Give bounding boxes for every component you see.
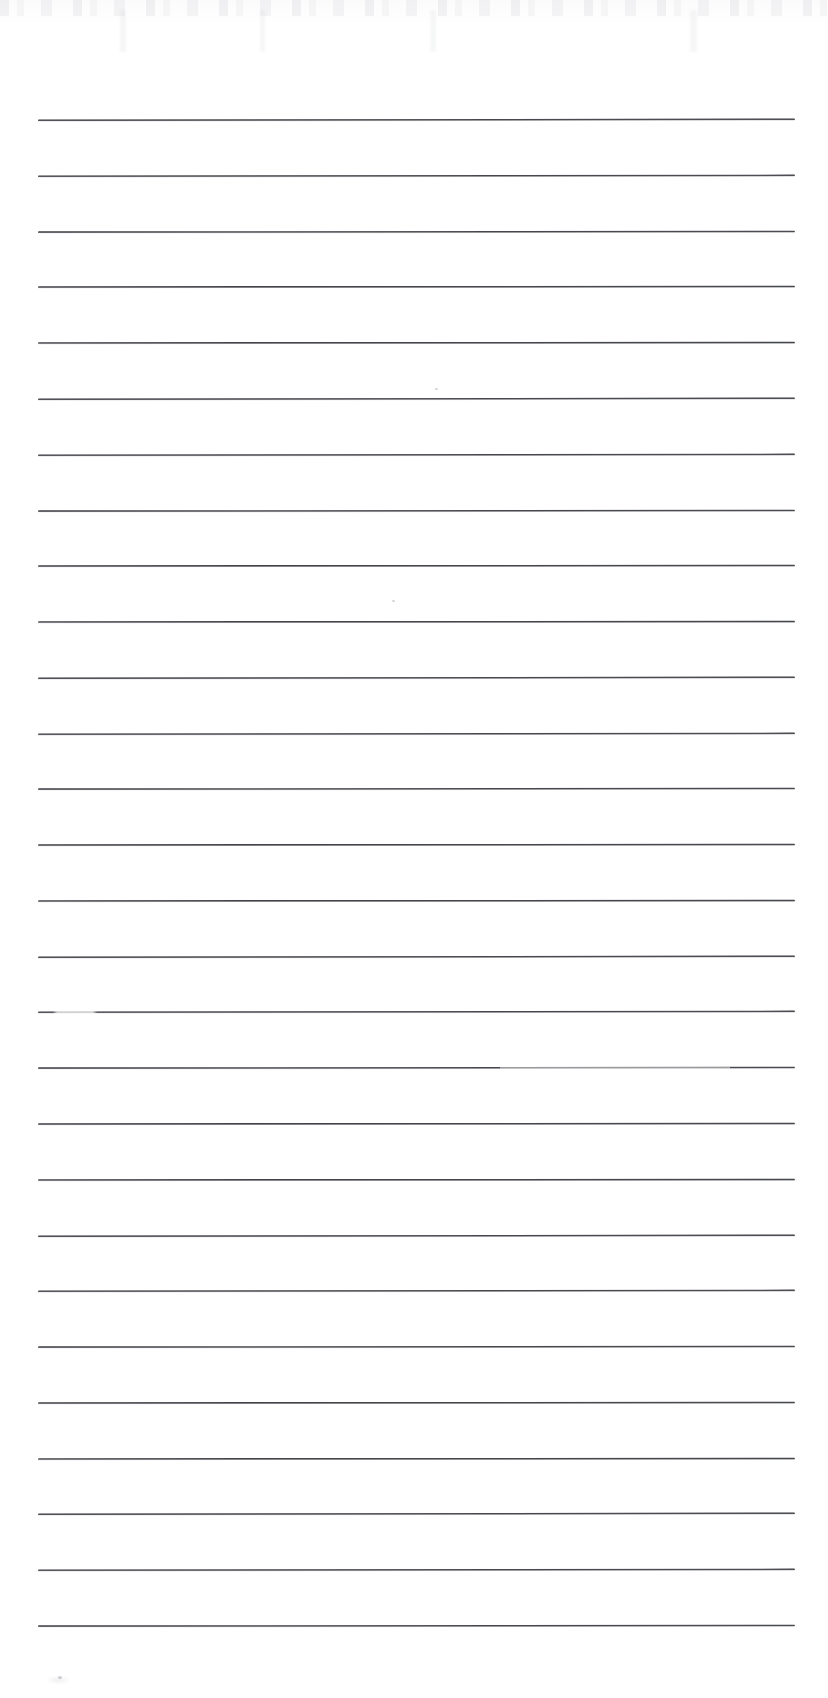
rule-line	[38, 621, 795, 623]
rule-line	[38, 1513, 795, 1516]
rule-line	[38, 119, 795, 122]
rule-line	[38, 175, 795, 178]
rule-line	[38, 510, 795, 513]
rule-line	[38, 565, 795, 567]
scan-noise-top-band	[0, 0, 828, 16]
rule-line	[38, 1067, 795, 1070]
rule-line	[38, 1346, 795, 1349]
paper-surface	[0, 0, 828, 1698]
speck-upper	[435, 388, 438, 390]
rule-line	[38, 733, 795, 736]
rule-line	[38, 1402, 795, 1404]
rule-line	[38, 342, 795, 344]
rule-line	[38, 1290, 795, 1293]
rule-line	[38, 1123, 795, 1125]
rule-line	[38, 286, 795, 288]
rule-line	[38, 900, 795, 902]
rule-line	[38, 1569, 795, 1572]
rule-line	[38, 231, 795, 234]
scan-noise-bottom-speck	[0, 1658, 828, 1698]
scan-noise-top-streaks	[0, 10, 828, 52]
rule-line	[38, 454, 795, 457]
rule-line	[38, 1235, 795, 1238]
rule-line	[38, 1011, 795, 1014]
rule-line-ink-gap	[55, 1010, 95, 1014]
rule-line	[38, 677, 795, 680]
rule-line	[38, 844, 795, 846]
speck-mid	[392, 600, 395, 602]
rule-line	[38, 398, 795, 401]
rule-line	[38, 1625, 795, 1628]
rule-line	[38, 788, 795, 791]
rule-line-soft-span	[500, 1067, 730, 1069]
rule-line	[38, 1179, 795, 1181]
rule-line	[38, 1458, 795, 1460]
scanned-page	[0, 0, 828, 1698]
rule-line	[38, 956, 795, 959]
speck-lower-left	[58, 1676, 62, 1679]
